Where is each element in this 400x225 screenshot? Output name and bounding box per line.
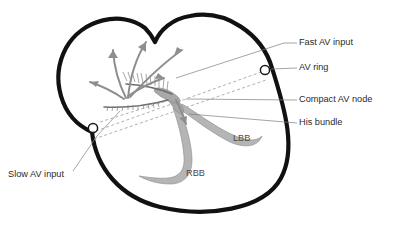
heart-diagram-svg: Fast AV input AV ring Compact AV node Hi…	[0, 0, 400, 225]
av-ring-left-marker	[88, 123, 97, 132]
label-slow-av-input: Slow AV input	[8, 169, 64, 179]
label-rbb: RBB	[186, 168, 205, 178]
label-fast-av-input: Fast AV input	[299, 37, 353, 47]
av-ring-right-marker	[260, 65, 269, 74]
leader-av-ring	[271, 68, 297, 69]
label-compact-av-node: Compact AV node	[299, 94, 372, 104]
label-lbb: LBB	[233, 133, 250, 143]
av-node-diagram: Fast AV input AV ring Compact AV node Hi…	[0, 0, 400, 225]
label-his-bundle: His bundle	[299, 117, 342, 127]
label-av-ring: AV ring	[299, 62, 328, 72]
